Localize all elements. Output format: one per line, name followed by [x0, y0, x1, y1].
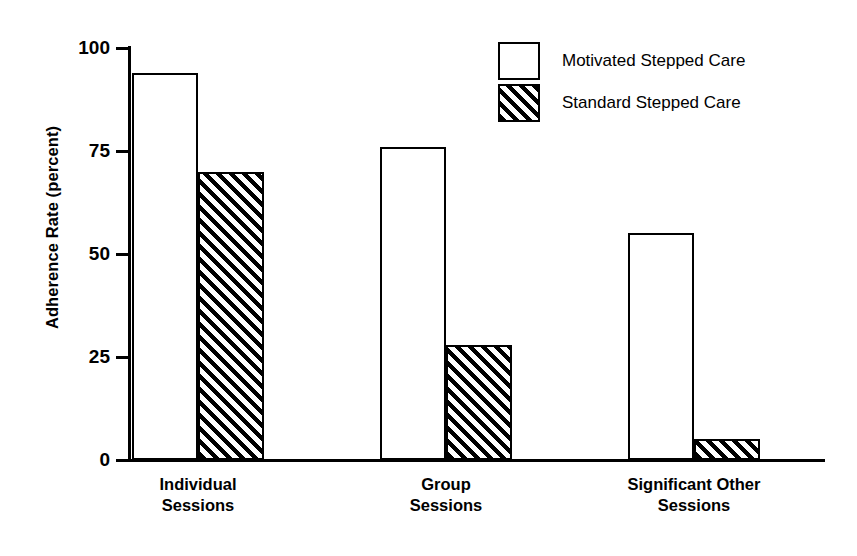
bar	[380, 147, 446, 460]
x-axis-category-label-line1: Individual	[88, 474, 308, 495]
y-axis-tick-label: 75	[54, 141, 110, 160]
y-axis-tick	[116, 253, 129, 256]
y-axis-tick-label-wrap: 25	[46, 357, 110, 358]
x-axis-category-label-line1: Significant Other	[584, 474, 804, 495]
x-axis-category-label: IndividualSessions	[88, 474, 308, 516]
y-axis-tick-label: 50	[54, 244, 110, 263]
x-axis-category-label-line1: Group	[336, 474, 556, 495]
y-axis-tick	[116, 356, 129, 359]
bar	[628, 233, 694, 460]
legend-item-standard[interactable]: Standard Stepped Care	[498, 82, 745, 124]
y-axis-tick	[116, 47, 129, 50]
y-axis-tick-label-wrap: 0	[46, 460, 110, 461]
legend-swatch-open-square	[498, 42, 540, 80]
bar	[446, 345, 512, 460]
x-axis-category-label-line2: Sessions	[584, 495, 804, 516]
x-axis-category-label: GroupSessions	[336, 474, 556, 516]
y-axis-title: Adherence Rate (percent)	[43, 78, 62, 378]
x-axis-category-label-line2: Sessions	[336, 495, 556, 516]
bar	[694, 439, 760, 460]
y-axis-tick	[116, 459, 129, 462]
y-axis-tick-label-wrap: 100	[46, 48, 110, 49]
legend-label-motivated: Motivated Stepped Care	[562, 51, 745, 71]
y-axis-tick-label-wrap: 75	[46, 151, 110, 152]
legend-item-motivated[interactable]: Motivated Stepped Care	[498, 40, 745, 82]
legend: Motivated Stepped Care Standard Stepped …	[498, 40, 745, 124]
legend-label-standard: Standard Stepped Care	[562, 93, 741, 113]
x-axis-category-label-line2: Sessions	[88, 495, 308, 516]
y-axis-tick-label: 25	[54, 347, 110, 366]
bar-chart-figure: Adherence Rate (percent) 0255075100 Indi…	[0, 0, 857, 556]
bar	[132, 73, 198, 460]
legend-swatch-hatched-square	[498, 84, 540, 122]
y-axis-tick-label: 100	[54, 38, 110, 57]
y-axis-tick-label: 0	[54, 450, 110, 469]
y-axis-tick-label-wrap: 50	[46, 254, 110, 255]
bar	[198, 172, 264, 460]
y-axis-tick	[116, 150, 129, 153]
x-axis-category-label: Significant OtherSessions	[584, 474, 804, 516]
